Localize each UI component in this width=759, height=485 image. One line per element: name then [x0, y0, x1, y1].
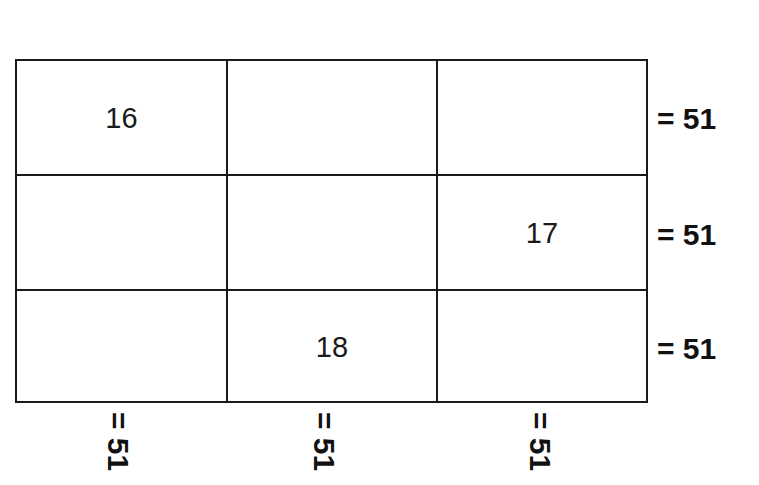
magic-square-grid: 16 17 18 [15, 59, 648, 403]
cell-r2-c2[interactable] [228, 176, 438, 291]
row-sum-3: = 51 [657, 334, 716, 364]
row-sum-1: = 51 [657, 104, 716, 134]
col-sum-1: = 51 [103, 412, 133, 471]
cell-r2-c1[interactable] [17, 176, 228, 291]
cell-r1-c2[interactable] [228, 61, 438, 176]
cell-r2-c3[interactable]: 17 [438, 176, 646, 291]
cell-r1-c1[interactable]: 16 [17, 61, 228, 176]
row-sum-2: = 51 [657, 220, 716, 250]
cell-r3-c3[interactable] [438, 291, 646, 401]
cell-r3-c2[interactable]: 18 [228, 291, 438, 401]
col-sum-3: = 51 [525, 412, 555, 471]
col-sum-2: = 51 [309, 412, 339, 471]
cell-r1-c3[interactable] [438, 61, 646, 176]
cell-r3-c1[interactable] [17, 291, 228, 401]
